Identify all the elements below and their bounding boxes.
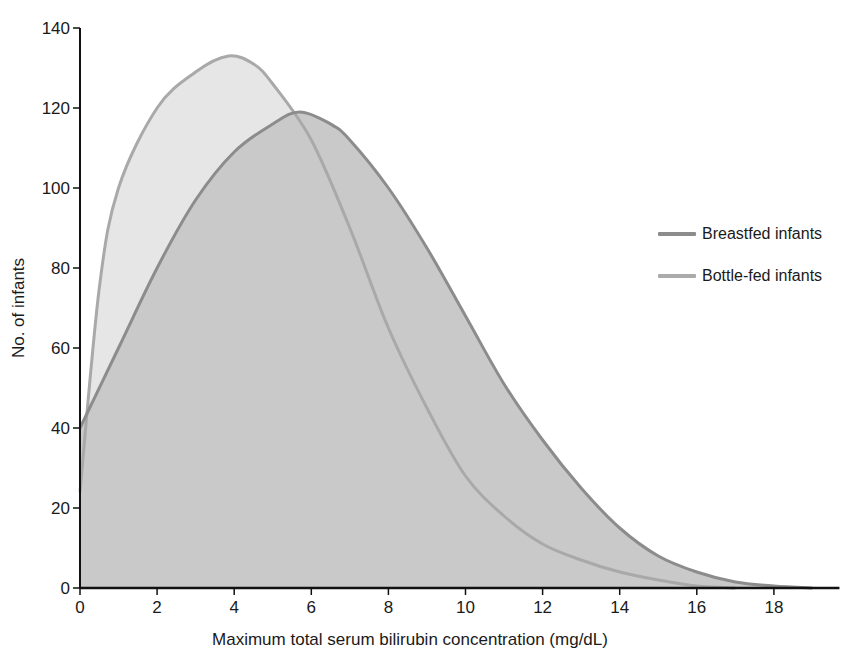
x-tick-label: 2 bbox=[152, 598, 161, 617]
legend: Breastfed infants Bottle-fed infants bbox=[658, 213, 822, 297]
bilirubin-distribution-chart: 024681012141618 020406080100120140 Maxim… bbox=[0, 0, 867, 665]
y-tick-label: 40 bbox=[51, 419, 70, 438]
plot-areas bbox=[80, 56, 812, 588]
legend-label-bottle-fed: Bottle-fed infants bbox=[702, 267, 822, 285]
y-tick-label: 140 bbox=[42, 19, 70, 38]
x-tick-label: 12 bbox=[533, 598, 552, 617]
y-tick-label: 20 bbox=[51, 499, 70, 518]
x-tick-label: 6 bbox=[307, 598, 316, 617]
x-tick-label: 10 bbox=[456, 598, 475, 617]
x-tick-label: 16 bbox=[687, 598, 706, 617]
x-tick-label: 4 bbox=[229, 598, 238, 617]
y-tick-label: 80 bbox=[51, 259, 70, 278]
y-tick-label: 60 bbox=[51, 339, 70, 358]
y-tick-label: 0 bbox=[61, 579, 70, 598]
y-axis: 020406080100120140 bbox=[42, 19, 80, 598]
legend-swatch-bottle-fed bbox=[658, 274, 696, 278]
y-tick-label: 100 bbox=[42, 179, 70, 198]
x-tick-label: 18 bbox=[764, 598, 783, 617]
x-tick-label: 14 bbox=[610, 598, 629, 617]
x-tick-label: 8 bbox=[384, 598, 393, 617]
y-tick-label: 120 bbox=[42, 99, 70, 118]
x-tick-label: 0 bbox=[75, 598, 84, 617]
x-axis-title: Maximum total serum bilirubin concentrat… bbox=[212, 630, 608, 649]
legend-label-breastfed: Breastfed infants bbox=[702, 225, 822, 243]
legend-swatch-breastfed bbox=[658, 232, 696, 236]
x-axis: 024681012141618 bbox=[75, 588, 839, 617]
legend-item-breastfed: Breastfed infants bbox=[658, 213, 822, 255]
y-axis-title: No. of infants bbox=[9, 258, 28, 358]
legend-item-bottle-fed: Bottle-fed infants bbox=[658, 255, 822, 297]
